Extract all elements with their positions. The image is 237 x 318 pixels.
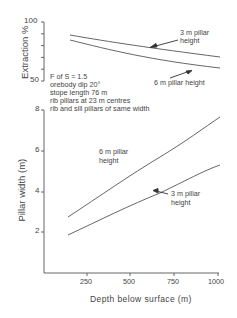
y-tick-8: 8 [35, 105, 39, 113]
width-3m-curve [68, 165, 220, 235]
leader-arrow-3m-top [150, 40, 178, 48]
width-6m-curve [68, 117, 220, 217]
y-tick-2: 2 [35, 227, 39, 235]
label-6m-bottom-2: height [99, 157, 119, 165]
label-3m-top-2: height [180, 37, 200, 45]
y-tick-4: 4 [35, 187, 39, 195]
y-tick-6: 6 [35, 146, 39, 154]
pillar-width-axis-label: Pillar width (m) [18, 140, 26, 240]
x-tick-750: 750 [167, 278, 179, 286]
extraction-axis [41, 22, 44, 81]
note-same-width: rib and sill pillars of same width [50, 105, 149, 113]
x-tick-500: 500 [123, 278, 135, 286]
x-tick-250: 250 [80, 278, 92, 286]
leader-arrow-6m-top [170, 71, 192, 79]
y-tick-100: 100 [24, 17, 37, 25]
x-tick-1000: 1000 [208, 278, 224, 286]
y-tick-50: 50 [30, 76, 39, 84]
label-3m-bottom-2: height [171, 199, 191, 207]
x-axis-label: Depth below surface (m) [90, 295, 192, 303]
extraction-axis-label: Extraction % [21, 22, 29, 82]
label-6m-top: 6 m pillar height [154, 79, 205, 87]
